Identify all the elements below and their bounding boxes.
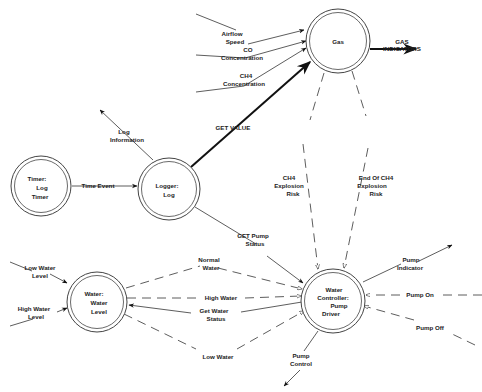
flow-label: Indicator — [397, 264, 424, 271]
process-label: Log — [163, 191, 175, 198]
process-label: Pump — [330, 302, 347, 309]
flow-label: Low Water — [24, 264, 56, 271]
flow-label: GET Pump — [237, 232, 269, 239]
process-gas[interactable]: Gas — [306, 9, 370, 73]
process-label: Log — [36, 184, 48, 191]
process-label: Water — [91, 299, 109, 306]
flow-label: Low Water — [202, 353, 234, 360]
process-label: Timer — [32, 193, 49, 200]
flow-label-high-water-level: High WaterLevel — [18, 305, 51, 320]
flow-label-normal-water: NormalWater — [198, 256, 220, 271]
flow-label-end-ch4-explosion-risk: End Of CH4ExplosionRisk — [357, 174, 394, 197]
process-label: Controller: — [317, 294, 349, 301]
flow-label-pump-indicator: PumpIndicator — [397, 256, 424, 271]
flow-label: High Water — [205, 294, 238, 301]
flow-label-pump-control: PumpControl — [290, 352, 312, 367]
flow-label: High Water — [18, 305, 51, 312]
flow-label-log-information: LogInformation — [110, 128, 144, 143]
flow-label: Concentration — [221, 54, 263, 61]
flow-label-gas-indicators: GASINDICATORS — [383, 38, 421, 52]
process-outer-circle — [138, 158, 200, 220]
flow-label-time-event: Time Event — [82, 182, 115, 189]
flow-label: CH4 — [240, 72, 253, 79]
flow-label: Control — [290, 360, 312, 367]
flow-label: Speed — [226, 38, 245, 45]
process-label: Water: — [84, 290, 103, 297]
flow-label: Log — [118, 128, 130, 135]
flow-label: Explosion — [357, 182, 387, 189]
flow-label: Get Water — [200, 307, 230, 314]
flow-label: Status — [246, 240, 265, 247]
flow-label-ch4-concentration: CH4Concentration — [223, 72, 265, 87]
flow-label-pump-off: Pump Off — [416, 324, 445, 331]
flow-label: GET VALUE — [216, 124, 251, 131]
flow-label: Risk — [286, 190, 300, 197]
flow-end-ch4-explosion-risk[interactable] — [344, 71, 368, 268]
process-label: Gas — [332, 38, 344, 45]
flow-label: Water — [203, 264, 221, 271]
flow-label: INDICATORS — [383, 45, 421, 52]
process-label: Level — [91, 308, 107, 315]
flow-label: End Of CH4 — [359, 174, 394, 181]
flow-label: CO — [243, 46, 252, 53]
process-water[interactable]: Water:WaterLevel — [67, 272, 127, 332]
flow-line — [196, 14, 304, 44]
flow-label: Level — [28, 313, 44, 320]
flow-label-high-water: High Water — [205, 294, 238, 301]
flow-ch4-explosion-risk[interactable] — [303, 73, 324, 269]
process-timer[interactable]: Timer:LogTimer — [11, 156, 71, 216]
flow-label: Time Event — [82, 182, 115, 189]
flow-label: Pump — [402, 256, 419, 263]
flow-line — [344, 71, 368, 268]
flow-label-co-concentration: COConcentration — [221, 46, 263, 61]
flow-label: Pump Off — [416, 324, 445, 331]
flow-label-airflow-speed: AirflowSpeed — [222, 30, 245, 45]
flow-label: Level — [32, 272, 48, 279]
flow-line — [100, 110, 153, 160]
flow-label: CH4 — [283, 174, 296, 181]
flow-label-get-pump-status: GET PumpStatus — [237, 232, 269, 247]
process-label: Driver — [322, 310, 340, 317]
flow-label-get-water-status: Get WaterStatus — [200, 307, 230, 322]
process-label: Timer: — [28, 175, 47, 182]
flow-label: Pump — [292, 352, 309, 359]
flow-label-get-value: GET VALUE — [216, 124, 251, 131]
flow-label: Risk — [369, 190, 383, 197]
flow-log-information[interactable] — [100, 110, 153, 160]
data-flow-diagram: GasLogger:LogTimer:LogTimerWater:WaterLe… — [0, 0, 482, 392]
process-label: Logger: — [155, 182, 178, 189]
process-logger[interactable]: Logger:Log — [138, 158, 200, 220]
flow-label: Pump On — [406, 291, 434, 298]
flow-label: Status — [207, 315, 226, 322]
process-controller[interactable]: WaterController:PumpDriver — [301, 269, 365, 333]
flow-label: Explosion — [274, 182, 304, 189]
flow-label: Normal — [198, 256, 220, 263]
flow-label-low-water-level: Low WaterLevel — [24, 264, 56, 279]
flow-label: Information — [110, 136, 144, 143]
flow-label: GAS — [395, 38, 408, 45]
flow-airflow-speed[interactable] — [196, 14, 304, 44]
flow-label-pump-on: Pump On — [406, 291, 434, 298]
flow-label: Concentration — [223, 80, 265, 87]
flow-line — [303, 73, 324, 269]
process-label: Water — [326, 286, 344, 293]
flow-label: Airflow — [222, 30, 243, 37]
flow-label-low-water: Low Water — [202, 353, 234, 360]
flow-label-ch4-explosion-risk: CH4ExplosionRisk — [274, 174, 304, 197]
